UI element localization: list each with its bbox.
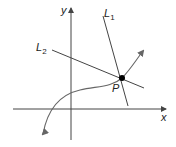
x-axis-label: x (160, 111, 167, 123)
curve (43, 51, 143, 134)
point-p-label: P (112, 82, 120, 94)
point-p (119, 75, 125, 81)
line-l1-label: L1 (104, 7, 115, 22)
diagram: x y L1 L2 P (0, 0, 176, 147)
curve-start-arrow (43, 133, 44, 134)
y-axis-label: y (60, 4, 68, 16)
line-l2-label: L2 (36, 41, 47, 56)
